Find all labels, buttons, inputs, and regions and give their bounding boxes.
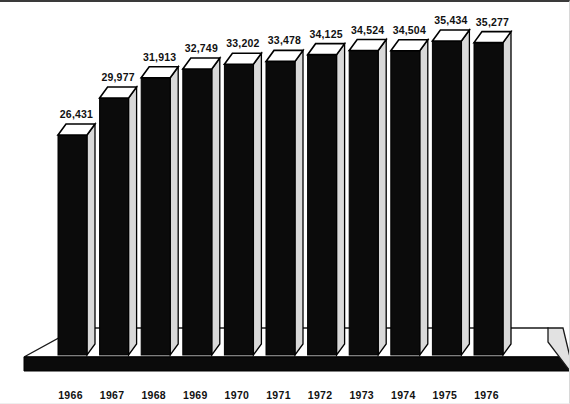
bar-side-face [420,40,428,355]
x-axis-tick-1975: 1975 [433,389,458,401]
x-axis-tick-1968: 1968 [141,389,166,401]
bar-front-face [432,41,461,355]
bar-side-face [503,32,511,355]
bar-front-face [474,43,503,355]
chart-canvas: 26,43129,97731,91332,74933,20233,47834,1… [0,0,570,404]
bar-front-face [58,135,87,355]
bar-1966 [58,124,95,355]
bar-value-label: 34,524 [351,24,384,36]
x-axis-tick-1971: 1971 [266,389,291,401]
bar-1967 [100,87,137,355]
bar-front-face [224,64,253,355]
bar-side-face [378,40,386,355]
bar-1970 [224,53,261,355]
bar-chart: 26,43129,97731,91332,74933,20233,47834,1… [0,0,570,404]
bar-side-face [212,58,220,355]
bar-front-face [141,78,170,355]
x-axis-tick-1973: 1973 [349,389,374,401]
x-axis-tick-1974: 1974 [391,389,416,401]
bar-1972 [308,44,345,355]
bar-front-face [183,69,212,355]
x-axis-tick-1976: 1976 [474,389,499,401]
x-axis-tick-group: 1966196719681969197019711972197319741975… [58,389,499,401]
x-axis-tick-1966: 1966 [58,389,83,401]
bar-front-face [391,51,420,355]
bar-value-label: 35,434 [434,14,467,26]
x-axis-tick-1972: 1972 [308,389,333,401]
bar-value-label: 33,202 [226,37,259,49]
bar-1974 [391,40,428,355]
bar-1976 [474,32,511,355]
bar-front-face [100,98,129,355]
x-axis-tick-1969: 1969 [183,389,208,401]
bar-side-face [87,124,95,355]
bar-1969 [183,58,220,355]
bar-front-face [308,55,337,355]
bar-value-label: 34,504 [393,24,426,36]
bar-value-label: 32,749 [185,42,218,54]
bar-1975 [432,30,469,355]
bar-side-face [461,30,469,355]
bar-front-face [266,61,295,355]
bar-1973 [349,40,386,355]
bar-1971 [266,50,303,355]
bar-side-face [129,87,137,355]
bar-side-face [253,53,261,355]
platform-front-edge [24,357,570,371]
bar-value-label: 33,478 [268,34,301,46]
bar-value-label: 35,277 [476,16,509,28]
bar-value-label: 26,431 [60,108,93,120]
bar-1968 [141,67,178,355]
bar-side-face [295,50,303,355]
bar-side-face [170,67,178,355]
bar-value-label: 34,125 [309,28,342,40]
bar-side-face [337,44,345,355]
bar-value-label: 29,977 [101,71,134,83]
x-axis-tick-1970: 1970 [225,389,250,401]
x-axis-tick-1967: 1967 [100,389,125,401]
bar-front-face [349,51,378,355]
bar-value-label: 31,913 [143,51,176,63]
